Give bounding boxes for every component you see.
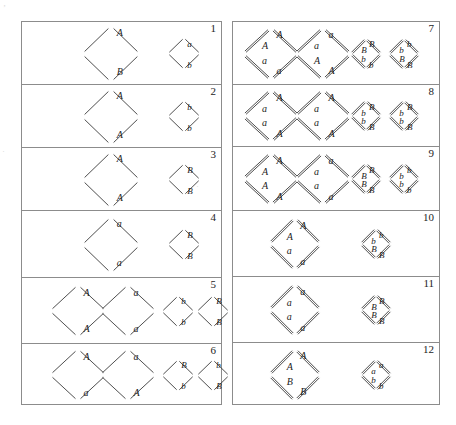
large-diamond-12-1-label-outer-bottom: B — [300, 387, 306, 397]
small-diamond-9-2-label-outer-bottom: b — [407, 186, 412, 195]
small-diamond-5-1: bb — [162, 296, 194, 327]
large-diamond-3-1-label-outer-top: A — [117, 154, 123, 164]
row-diagram-area: aaaaBBBB — [233, 277, 439, 342]
large-diamond-7-1-label-outer-bottom: a — [277, 66, 282, 76]
large-diamond-6-2: aA — [100, 349, 156, 401]
large-diamond-9-1-shape — [243, 153, 299, 205]
small-diamond-11-1-label-outer-top: B — [379, 297, 385, 306]
scan-artifact: ʼ — [3, 3, 6, 13]
large-diamond-6-2-label-outer-bottom: A — [134, 388, 140, 398]
large-diamond-3-1-label-outer-bottom: A — [117, 193, 123, 203]
figure-row-8: 8AaaAAaaABbbBBbbB — [233, 85, 439, 147]
small-diamond-1-1-shape — [168, 38, 200, 69]
small-diamond-8-2-label-outer-bottom: B — [407, 123, 413, 132]
figure-row-4: 4aaBB — [22, 211, 221, 278]
small-diamond-3-1-label-outer-bottom: B — [187, 187, 193, 196]
large-diamond-4-1-label-outer-top: a — [117, 219, 122, 229]
small-diamond-10-1-label-inner-bottom: B — [371, 245, 377, 254]
large-diamond-9-1-label-outer-top: A — [277, 156, 283, 166]
large-diamond-1-1-shape — [82, 26, 140, 82]
large-diamond-3-1: AA — [82, 152, 140, 208]
large-diamond-9-1-label-inner-bottom: A — [262, 181, 268, 191]
figure-row-11: 11aaaaBBBB — [233, 277, 439, 343]
small-diamond-6-2-shape — [197, 360, 229, 391]
small-diamond-4-1-shape — [168, 229, 200, 260]
large-diamond-1-1: AB — [82, 26, 140, 82]
small-diamond-6-1-shape — [162, 360, 194, 391]
large-diamond-3-1-shape — [82, 152, 140, 208]
small-diamond-4-1: BB — [168, 229, 200, 260]
large-diamond-10-1-label-outer-top: A — [300, 221, 306, 231]
large-diamond-1-1-label-outer-bottom: B — [117, 67, 123, 77]
small-diamond-12-1-label-outer-bottom: b — [379, 382, 384, 391]
large-diamond-5-1: AA — [50, 285, 106, 337]
small-diamond-8-1-label-outer-bottom: B — [369, 123, 375, 132]
small-diamond-7-1-label-outer-top: B — [369, 40, 375, 49]
large-diamond-8-2-label-inner-bottom: a — [314, 118, 319, 128]
small-diamond-5-1-label-outer-bottom: b — [181, 318, 186, 327]
small-diamond-9-1-label-outer-top: B — [369, 166, 375, 175]
large-diamond-8-1: AaaA — [243, 90, 299, 142]
large-diamond-5-1-label-outer-bottom: A — [84, 324, 90, 334]
figure-row-12: 12AABBaabb — [233, 343, 439, 406]
small-diamond-8-1-label-outer-top: B — [369, 103, 375, 112]
large-diamond-7-2-label-inner-bottom: A — [314, 56, 320, 66]
large-diamond-7-2-label-outer-bottom: A — [329, 66, 335, 76]
large-diamond-7-2: aaAA — [295, 28, 351, 80]
large-diamond-8-2: AaaA — [295, 90, 351, 142]
row-diagram-area: AAAAaaaaBBBBbbbb — [233, 147, 439, 210]
large-diamond-8-2-label-outer-top: A — [329, 93, 335, 103]
small-diamond-1-1-label-outer-top: a — [187, 40, 192, 49]
small-diamond-8-2-label-outer-top: B — [407, 103, 413, 112]
small-diamond-4-1-label-outer-top: B — [187, 231, 193, 240]
large-diamond-8-1-shape — [243, 90, 299, 142]
small-diamond-5-1-label-outer-top: b — [181, 297, 186, 306]
large-diamond-12-1: AABB — [269, 349, 321, 401]
small-diamond-10-1-label-outer-bottom: B — [379, 251, 385, 260]
small-diamond-3-1-label-outer-top: B — [187, 166, 193, 175]
small-diamond-6-2-label-outer-top: b — [216, 361, 221, 370]
figure-plate: 1ABab2AAbb3AABB4aaBB5AAaabbBB6AaaABbbB 7… — [0, 0, 456, 425]
figure-row-6: 6AaaABbbB — [22, 344, 221, 406]
large-diamond-9-2-label-inner-top: a — [314, 167, 319, 177]
small-diamond-7-2-label-outer-top: b — [407, 40, 412, 49]
small-diamond-1-1-label-outer-bottom: b — [187, 61, 192, 70]
large-diamond-7-1-label-inner-bottom: a — [262, 56, 267, 66]
large-diamond-7-2-label-inner-top: a — [314, 41, 319, 51]
large-diamond-12-1-label-outer-top: A — [300, 351, 306, 361]
figure-row-3: 3AABB — [22, 148, 221, 211]
small-diamond-9-2: bbbb — [389, 164, 419, 194]
large-diamond-7-2-shape — [295, 28, 351, 80]
large-diamond-11-1-label-inner-bottom: a — [287, 312, 292, 322]
small-diamond-7-2-label-outer-bottom: B — [407, 61, 413, 70]
large-diamond-4-1: aa — [82, 217, 140, 273]
large-diamond-11-1-shape — [269, 284, 321, 336]
large-diamond-1-1-label-outer-top: A — [117, 28, 123, 38]
small-diamond-9-1-label-outer-bottom: B — [369, 186, 375, 195]
large-diamond-2-1-shape — [82, 89, 140, 145]
small-diamond-12-1-label-outer-top: a — [379, 361, 384, 370]
small-diamond-2-1-shape — [168, 101, 200, 132]
small-diamond-7-2-label-inner-bottom: B — [399, 55, 405, 64]
large-diamond-6-1-label-outer-bottom: a — [84, 388, 89, 398]
large-diamond-8-1-label-inner-bottom: a — [262, 118, 267, 128]
small-diamond-8-1-shape — [351, 101, 381, 131]
row-diagram-area: AAaabbBB — [22, 278, 221, 343]
scan-artifact: · — [196, 181, 199, 191]
large-diamond-5-2-label-outer-top: a — [134, 288, 139, 298]
large-diamond-11-1: aaaa — [269, 284, 321, 336]
small-diamond-2-1: bb — [168, 101, 200, 132]
figure-row-10: 10AAaabbBB — [233, 211, 439, 277]
large-diamond-4-1-label-outer-bottom: a — [117, 258, 122, 268]
large-diamond-12-1-shape — [269, 349, 321, 401]
large-diamond-8-2-label-inner-top: a — [314, 104, 319, 114]
small-diamond-5-2-label-outer-top: B — [216, 297, 222, 306]
small-diamond-6-1-label-outer-bottom: b — [181, 382, 186, 391]
small-diamond-7-1-label-outer-bottom: b — [369, 61, 374, 70]
large-diamond-6-1: Aa — [50, 349, 106, 401]
large-diamond-8-2-label-outer-bottom: A — [329, 129, 335, 139]
small-diamond-5-2-label-outer-bottom: B — [216, 318, 222, 327]
large-diamond-8-1-label-outer-top: A — [277, 93, 283, 103]
small-diamond-10-1-label-outer-top: b — [379, 231, 384, 240]
large-diamond-8-1-label-outer-bottom: A — [277, 129, 283, 139]
